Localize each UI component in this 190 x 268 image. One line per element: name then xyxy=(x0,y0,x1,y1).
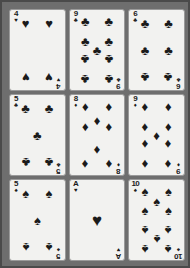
card-pip-diamonds-icon: ♦ xyxy=(82,157,89,170)
card-pip-clubs-icon: ♣ xyxy=(93,44,102,57)
card-pip-clubs-icon: ♣ xyxy=(45,101,54,114)
card-pip-diamonds-icon: ♦ xyxy=(105,100,112,113)
card-pip-diamonds-icon: ♦ xyxy=(142,157,149,170)
card-pip-hearts-icon: ♥ xyxy=(22,16,30,29)
card-pip-diamonds-icon: ♦ xyxy=(82,119,89,132)
playing-card[interactable]: 6♣6♣♣♣♣♣♣♣ xyxy=(128,9,185,91)
card-rank-label: A xyxy=(116,252,121,259)
card-pip-spades-icon: ♠ xyxy=(153,194,160,207)
card-pip-clubs-icon: ♣ xyxy=(164,44,173,57)
card-pip-clubs-icon: ♣ xyxy=(45,156,54,169)
card-suit-icon: ♦ xyxy=(74,103,77,108)
playing-card[interactable]: 5♣5♣♣♣♣♣♣ xyxy=(9,94,66,176)
card-suit-icon: ♦ xyxy=(134,103,137,108)
card-rank-label: 8 xyxy=(116,167,120,174)
card-pip-spades-icon: ♠ xyxy=(165,185,172,198)
card-pip-diamonds-icon: ♦ xyxy=(94,144,101,157)
card-pip-spades-icon: ♠ xyxy=(141,185,148,198)
card-suit-icon: ♦ xyxy=(117,162,120,167)
card-pip-field: ♣♣♣♣♣♣ xyxy=(138,14,175,86)
card-pip-spades-icon: ♠ xyxy=(46,241,53,254)
card-rank-label: 9 xyxy=(116,82,120,89)
card-pip-spades-icon: ♠ xyxy=(165,203,172,216)
card-pip-diamonds-icon: ♦ xyxy=(165,138,172,151)
card-pip-field: ♠♠♠♠♠♠♠♠♠♠ xyxy=(138,184,175,256)
card-pip-field: ♣♣♣♣♣ xyxy=(19,99,56,171)
card-pip-clubs-icon: ♣ xyxy=(81,15,90,28)
card-pip-field: ♠♠♠♠♠ xyxy=(19,184,56,256)
card-pip-field: ♥♥♥♥ xyxy=(19,14,56,86)
card-pip-spades-icon: ♠ xyxy=(153,233,160,246)
card-pip-hearts-icon: ♥ xyxy=(22,71,30,84)
card-rank-label: 5 xyxy=(57,252,61,259)
card-pip-spades-icon: ♠ xyxy=(141,224,148,237)
card-pip-diamonds-icon: ♦ xyxy=(142,100,149,113)
card-pip-spades-icon: ♠ xyxy=(141,242,148,255)
card-pip-clubs-icon: ♣ xyxy=(33,129,42,142)
card-suit-icon: ♠ xyxy=(176,247,179,252)
playing-card[interactable]: A♥A♥♥ xyxy=(69,179,126,261)
card-pip-clubs-icon: ♣ xyxy=(21,156,30,169)
card-pip-clubs-icon: ♣ xyxy=(141,44,150,57)
card-rank-label: 4 xyxy=(57,82,61,89)
playing-card[interactable]: 10♠10♠♠♠♠♠♠♠♠♠♠♠ xyxy=(128,179,185,261)
card-suit-icon: ♠ xyxy=(14,188,17,193)
card-pip-diamonds-icon: ♦ xyxy=(142,138,149,151)
card-pip-diamonds-icon: ♦ xyxy=(94,113,101,126)
card-rank-label: 6 xyxy=(176,82,180,89)
card-pip-clubs-icon: ♣ xyxy=(164,16,173,29)
card-pip-diamonds-icon: ♦ xyxy=(142,119,149,132)
card-pip-diamonds-icon: ♦ xyxy=(82,100,89,113)
card-pip-diamonds-icon: ♦ xyxy=(165,157,172,170)
card-pip-spades-icon: ♠ xyxy=(165,224,172,237)
card-pip-diamonds-icon: ♦ xyxy=(105,157,112,170)
card-board: 4♥4♥♥♥♥♥9♣9♣♣♣♣♣♣♣♣♣♣6♣6♣♣♣♣♣♣♣5♣5♣♣♣♣♣♣… xyxy=(0,0,190,268)
card-pip-clubs-icon: ♣ xyxy=(81,72,90,85)
card-suit-icon: ♠ xyxy=(134,188,137,193)
card-pip-field: ♦♦♦♦♦♦♦♦ xyxy=(79,99,116,171)
card-pip-spades-icon: ♠ xyxy=(34,214,41,227)
card-pip-hearts-icon: ♥ xyxy=(45,16,53,29)
card-pip-clubs-icon: ♣ xyxy=(21,101,30,114)
card-suit-icon: ♥ xyxy=(117,247,121,252)
card-pip-field: ♦♦♦♦♦♦♦♦♦ xyxy=(138,99,175,171)
card-pip-hearts-icon: ♥ xyxy=(45,71,53,84)
card-grid: 4♥4♥♥♥♥♥9♣9♣♣♣♣♣♣♣♣♣♣6♣6♣♣♣♣♣♣♣5♣5♣♣♣♣♣♣… xyxy=(9,9,185,261)
card-pip-clubs-icon: ♣ xyxy=(141,16,150,29)
card-suit-icon: ♣ xyxy=(133,18,137,23)
card-rank-label: 10 xyxy=(174,252,182,259)
card-pip-clubs-icon: ♣ xyxy=(141,71,150,84)
card-pip-clubs-icon: ♣ xyxy=(104,15,113,28)
card-suit-icon: ♣ xyxy=(14,103,18,108)
card-pip-spades-icon: ♠ xyxy=(46,186,53,199)
card-pip-clubs-icon: ♣ xyxy=(104,34,113,47)
card-suit-icon: ♣ xyxy=(116,77,120,82)
card-pip-spades-icon: ♠ xyxy=(141,203,148,216)
card-suit-icon: ♣ xyxy=(57,162,61,167)
card-suit-icon: ♥ xyxy=(57,77,61,82)
card-suit-icon: ♠ xyxy=(57,247,60,252)
card-pip-diamonds-icon: ♦ xyxy=(153,129,160,142)
playing-card[interactable]: 5♠5♠♠♠♠♠♠ xyxy=(9,179,66,261)
card-rank-label: 9 xyxy=(176,167,180,174)
card-suit-icon: ♣ xyxy=(74,18,78,23)
card-suit-icon: ♥ xyxy=(14,18,18,23)
card-pip-clubs-icon: ♣ xyxy=(104,72,113,85)
card-pip-diamonds-icon: ♦ xyxy=(165,100,172,113)
card-suit-icon: ♣ xyxy=(176,77,180,82)
card-pip-hearts-icon: ♥ xyxy=(92,212,102,229)
playing-card[interactable]: 4♥4♥♥♥♥♥ xyxy=(9,9,66,91)
card-suit-icon: ♥ xyxy=(74,188,78,193)
card-pip-spades-icon: ♠ xyxy=(165,242,172,255)
playing-card[interactable]: 9♣9♣♣♣♣♣♣♣♣♣♣ xyxy=(69,9,126,91)
card-rank-label: 5 xyxy=(57,167,61,174)
card-pip-clubs-icon: ♣ xyxy=(164,71,173,84)
card-pip-clubs-icon: ♣ xyxy=(81,34,90,47)
playing-card[interactable]: 8♦8♦♦♦♦♦♦♦♦♦ xyxy=(69,94,126,176)
playing-card[interactable]: 9♦9♦♦♦♦♦♦♦♦♦♦ xyxy=(128,94,185,176)
card-pip-clubs-icon: ♣ xyxy=(81,53,90,66)
card-pip-spades-icon: ♠ xyxy=(22,241,29,254)
card-pip-diamonds-icon: ♦ xyxy=(165,119,172,132)
card-pip-field: ♣♣♣♣♣♣♣♣♣ xyxy=(79,14,116,86)
card-pip-diamonds-icon: ♦ xyxy=(105,119,112,132)
